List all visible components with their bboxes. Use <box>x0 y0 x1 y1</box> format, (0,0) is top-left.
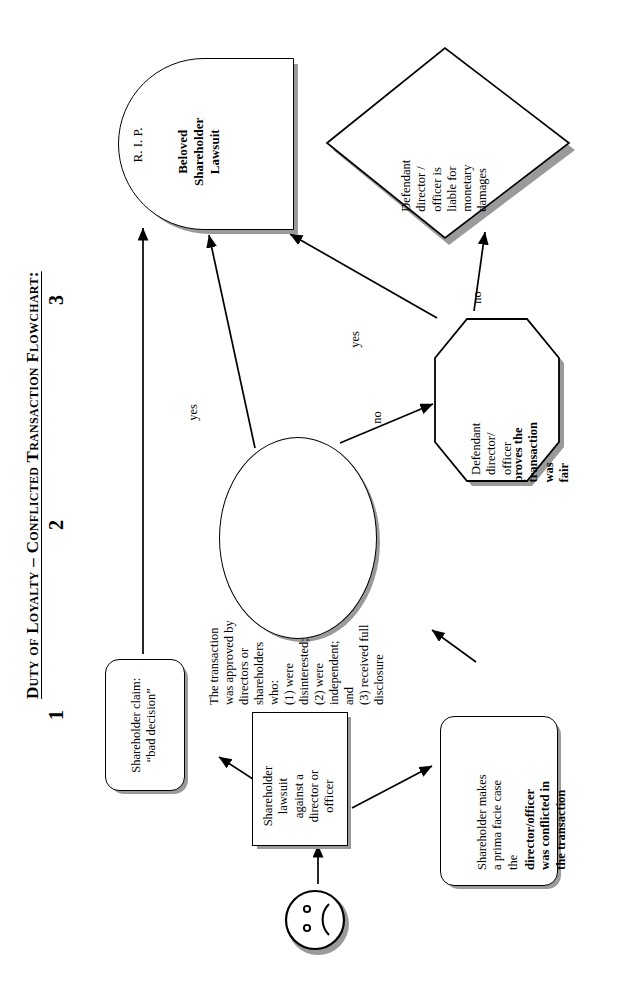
sad-face-icon <box>283 888 349 954</box>
node-shareholder-lawsuit: Shareholder lawsuit against a director o… <box>252 712 346 844</box>
node-prima-facie: Shareholder makes a prima facie case the… <box>440 716 556 884</box>
flowchart-page: Duty of Loyalty – Conflicted Transaction… <box>0 0 621 991</box>
node-liable-damages: Defendant director / officer is liable f… <box>323 42 567 240</box>
sad-face-node <box>283 888 349 954</box>
node-transaction-approved: The transaction was approved by director… <box>219 437 375 637</box>
edge-label-fairness-to-rip: yes <box>348 323 363 357</box>
node-rip-tombstone: R. I. P. Beloved Shareholder Lawsuit <box>118 58 292 228</box>
edge-prima-facie-to-approved <box>432 630 476 662</box>
edge-approved-to-rip <box>209 235 255 448</box>
edge-label-approved-to-rip: yes <box>186 396 201 430</box>
edge-lawsuit-to-prima-facie <box>352 766 432 808</box>
edge-label-fairness-to-liable: no <box>470 281 485 315</box>
node-fairness-test: Defendant director/ officer proves the t… <box>428 313 556 479</box>
node-bad-decision: Shareholder claim: “bad decision” <box>105 659 183 789</box>
edge-label-approved-to-fairness: no <box>370 401 385 435</box>
